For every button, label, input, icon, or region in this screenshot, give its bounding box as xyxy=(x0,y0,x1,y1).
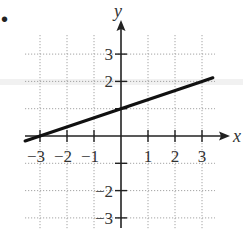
item-bullet: • xyxy=(1,8,8,30)
axes xyxy=(25,27,222,228)
x-tick-label: 2 xyxy=(171,147,180,166)
y-tick-label: −3 xyxy=(95,209,113,228)
x-tick-label: −1 xyxy=(81,147,99,166)
y-tick-label: 2 xyxy=(105,72,114,91)
x-tick-label: −2 xyxy=(54,147,72,166)
x-axis-label: x xyxy=(232,126,241,146)
x-tick-label: −3 xyxy=(27,147,45,166)
series-line xyxy=(25,78,213,141)
coordinate-graph: • −3−2−1123 32−2−3 x y xyxy=(0,0,243,245)
y-tick-label: −2 xyxy=(95,182,113,201)
y-tick-label: 3 xyxy=(105,45,114,64)
x-tick-label: 3 xyxy=(198,147,207,166)
y-axis-label: y xyxy=(112,1,122,21)
x-tick-label: 1 xyxy=(144,147,153,166)
